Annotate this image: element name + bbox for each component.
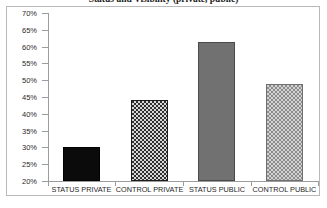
- bar-status-public: [198, 42, 235, 181]
- y-axis-label: 70%: [5, 10, 37, 18]
- y-axis-label: 30%: [5, 144, 37, 152]
- y-axis-label: 60%: [5, 44, 37, 52]
- y-tick-mark: [42, 63, 48, 64]
- y-tick-mark: [42, 131, 48, 132]
- x-axis-label: CONTROL PRIVATE: [114, 186, 185, 194]
- y-tick-mark: [42, 30, 48, 31]
- y-axis-label: 45%: [5, 94, 37, 102]
- y-axis-label: 65%: [5, 27, 37, 35]
- y-tick-mark: [42, 97, 48, 98]
- chart-title: Status and Visibility (private, public): [0, 0, 327, 4]
- y-tick-mark: [42, 147, 48, 148]
- y-axis-label: 55%: [5, 60, 37, 68]
- x-axis-label: STATUS PRIVATE: [47, 186, 116, 194]
- y-tick-mark: [42, 47, 48, 48]
- bar-control-private: [131, 100, 168, 181]
- y-axis-label: 20%: [5, 178, 37, 186]
- y-tick-mark: [42, 13, 48, 14]
- x-axis-label: STATUS PUBLIC: [183, 186, 251, 194]
- y-axis-line: [48, 13, 49, 182]
- y-axis-label: 25%: [5, 161, 37, 169]
- y-tick-mark: [42, 80, 48, 81]
- y-axis-label: 35%: [5, 128, 37, 136]
- chart-frame: 70% 65% 60% 55% 50% 45% 40% 35% 30% 25% …: [6, 6, 320, 196]
- y-tick-mark: [42, 164, 48, 165]
- y-tick-mark: [42, 114, 48, 115]
- y-axis-label: 40%: [5, 111, 37, 119]
- y-axis-label: 50%: [5, 77, 37, 85]
- bar-status-private: [63, 147, 100, 181]
- bar-control-public: [266, 84, 303, 181]
- chart-title-clip: Status and Visibility (private, public): [0, 0, 327, 5]
- x-axis-label: CONTROL PUBLIC: [249, 186, 320, 194]
